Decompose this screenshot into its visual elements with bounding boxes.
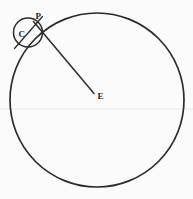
epicycle-diagram: P C E	[0, 0, 193, 199]
diagram-background	[0, 0, 193, 199]
label-planet-point: P	[36, 11, 42, 21]
label-epicycle-center: C	[19, 29, 26, 39]
label-earth-point: E	[98, 91, 104, 101]
diagram-canvas: P C E	[0, 0, 193, 199]
